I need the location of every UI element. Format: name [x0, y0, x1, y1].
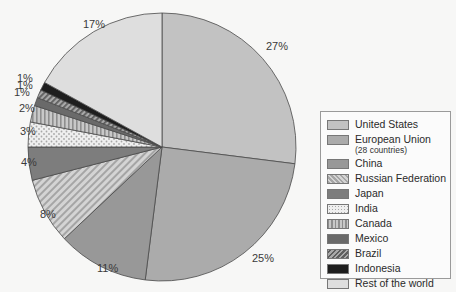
legend-swatch	[327, 204, 349, 214]
legend-item-mexico: Mexico	[327, 232, 446, 247]
legend-label-text: United States	[355, 118, 418, 130]
legend-swatch	[327, 264, 349, 274]
legend-item-brazil: Brazil	[327, 247, 446, 262]
legend-swatch	[327, 279, 349, 289]
legend-label-text: Canada	[355, 217, 392, 229]
legend-swatch	[327, 159, 349, 169]
legend-label: United States	[355, 118, 418, 131]
legend-item-united-states: United States	[327, 118, 446, 133]
legend-label-text: European Union	[355, 133, 431, 145]
legend-swatch	[327, 120, 349, 130]
legend-sublabel: (28 countries)	[355, 146, 431, 155]
legend: United StatesEuropean Union(28 countries…	[320, 111, 451, 279]
legend-label-text: Mexico	[355, 232, 388, 244]
legend-label: Brazil	[355, 247, 381, 260]
pct-label-rest-of-the-world: 17%	[83, 18, 105, 30]
legend-label: Indonesia	[355, 262, 401, 275]
legend-label-text: Japan	[355, 187, 384, 199]
pct-label-india: 3%	[20, 125, 36, 137]
legend-item-india: India	[327, 202, 446, 217]
pct-label-china: 11%	[97, 262, 118, 274]
legend-label: Canada	[355, 217, 392, 230]
pct-label-european-union-28-countries: 25%	[252, 252, 274, 264]
slice-united-states	[162, 13, 296, 164]
legend-label-text: Brazil	[355, 247, 381, 259]
legend-label: Rest of the world	[355, 277, 434, 290]
legend-item-japan: Japan	[327, 187, 446, 202]
legend-label: Mexico	[355, 232, 388, 245]
legend-item-indonesia: Indonesia	[327, 262, 446, 277]
legend-label: Russian Federation	[355, 172, 446, 185]
legend-item-rest-of-the-world: Rest of the world	[327, 277, 446, 292]
pct-label-canada: 2%	[19, 102, 35, 114]
legend-item-european-union: European Union(28 countries)	[327, 133, 446, 157]
legend-label: India	[355, 202, 378, 215]
legend-item-russian-federation: Russian Federation	[327, 172, 446, 187]
legend-label-text: Indonesia	[355, 262, 401, 274]
pct-label-united-states: 27%	[266, 40, 288, 52]
legend-label: European Union(28 countries)	[355, 133, 431, 155]
legend-label: China	[355, 157, 382, 170]
legend-swatch	[327, 174, 349, 184]
legend-item-china: China	[327, 157, 446, 172]
legend-label-text: China	[355, 157, 382, 169]
legend-label-text: Russian Federation	[355, 172, 446, 184]
pie-slices	[28, 13, 296, 281]
legend-swatch	[327, 249, 349, 259]
legend-item-canada: Canada	[327, 217, 446, 232]
pct-label-russian-federation: 8%	[40, 208, 56, 220]
legend-label-text: India	[355, 202, 378, 214]
pct-label-indonesia: 1%	[17, 72, 33, 84]
legend-swatch	[327, 219, 349, 229]
legend-swatch	[327, 234, 349, 244]
legend-swatch	[327, 135, 349, 145]
legend-swatch	[327, 189, 349, 199]
legend-label: Japan	[355, 187, 384, 200]
legend-label-text: Rest of the world	[355, 277, 434, 289]
pct-label-japan: 4%	[21, 156, 37, 168]
